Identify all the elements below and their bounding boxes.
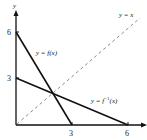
tick-label-x6: 6 [125,129,129,138]
x-axis-arrow-icon [141,123,147,128]
tick-label-y6: 6 [7,28,11,37]
f-inverse-label-suffix: (x) [110,97,118,105]
tick-label-y3: 3 [7,74,11,83]
f-inverse-label-prefix: y = f [90,97,105,105]
f-inverse-label: y = f−1(x) [90,96,118,105]
identity-label: y = x [118,11,134,19]
f-line [16,32,72,125]
tick-label-x3: 3 [69,129,73,138]
f-label: y = f(x) [35,49,58,57]
y-axis-label: y [12,2,17,10]
chart: y y = x y = f(x) y = f−1(x) 6 3 3 6 [0,0,147,140]
y-axis-arrow-icon [14,10,19,16]
identity-line [17,18,140,124]
